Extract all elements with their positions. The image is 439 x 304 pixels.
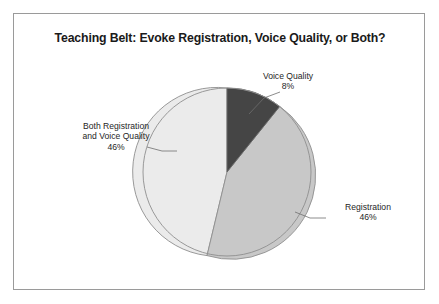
pie-label-both-line2: and Voice Quality — [64, 131, 168, 141]
pie-label-voice-quality: Voice Quality 8% — [244, 71, 332, 92]
pie-label-registration: Registration 46% — [325, 202, 411, 223]
pie-label-voice-quality-pct: 8% — [244, 81, 332, 91]
pie-label-voice-quality-name: Voice Quality — [244, 71, 332, 81]
chart-frame: Teaching Belt: Evoke Registration, Voice… — [13, 13, 425, 290]
pie-chart — [14, 14, 426, 291]
pie-label-both-line1: Both Registration — [64, 121, 168, 131]
pie-label-both: Both Registration and Voice Quality 46% — [64, 121, 168, 152]
pie-label-registration-pct: 46% — [325, 212, 411, 222]
pie-label-registration-name: Registration — [325, 202, 411, 212]
pie-label-both-pct: 46% — [64, 142, 168, 152]
